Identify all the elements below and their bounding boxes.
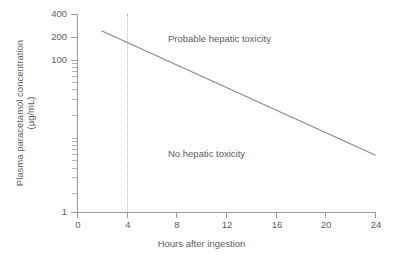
- y-axis-title: Plasma paracetamol concentration (µg/mL): [14, 14, 30, 212]
- treatment-line: [102, 31, 375, 155]
- paracetamol-nomogram-chart: 400 200 100 1 0 4 8 12 16 20 24 Probable…: [0, 0, 403, 262]
- annotation-no-hepatic-toxicity: No hepatic toxicity: [168, 148, 245, 159]
- x-axis-title: Hours after ingestion: [0, 238, 403, 249]
- y-axis-title-line1: Plasma paracetamol concentration: [14, 40, 25, 186]
- y-axis-title-line2: (µg/mL): [25, 14, 36, 212]
- annotation-probable-hepatic-toxicity: Probable hepatic toxicity: [168, 33, 271, 44]
